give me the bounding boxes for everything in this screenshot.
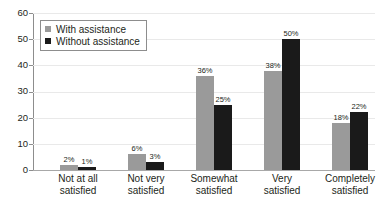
legend-item-with-assistance[interactable]: With assistance [45, 23, 140, 35]
bar-value-with-assistance-not-very-satisfied: 6% [122, 145, 152, 153]
y-tick-label-50: 50 [2, 34, 28, 44]
x-category-line1-completely: Completely [325, 173, 375, 184]
bar-chart-figure: 60 50 40 30 20 10 0 2% 1% 6% [0, 0, 380, 212]
legend-swatch-icon-with-assistance [45, 26, 51, 32]
bar-without-assistance-not-at-all-satisfied[interactable] [78, 167, 96, 170]
y-tick-label-30: 30 [2, 86, 28, 96]
bar-group-completely-satisfied: 18% 22% [332, 13, 368, 170]
y-tick-label-10: 10 [2, 139, 28, 149]
x-category-line1-not-at-all: Not at all [58, 173, 97, 184]
y-tick-label-40: 40 [2, 60, 28, 70]
x-category-line1-not-very: Not very [127, 173, 164, 184]
gridline-baseline-0 [33, 170, 375, 171]
bar-without-assistance-somewhat-satisfied[interactable] [214, 105, 232, 170]
chart-legend: With assistance Without assistance [40, 20, 147, 51]
x-category-line1-very: Very [272, 173, 292, 184]
y-tick-label-60: 60 [2, 8, 28, 18]
x-axis-labels: Not at all satisfied Not very satisfied … [33, 173, 375, 203]
x-category-line2-satisfied: satisfied [307, 185, 380, 197]
y-tick-label-20: 20 [2, 113, 28, 123]
legend-swatch-icon-without-assistance [45, 38, 51, 44]
bar-without-assistance-completely-satisfied[interactable] [350, 112, 368, 170]
legend-label-without-assistance: Without assistance [56, 36, 140, 47]
cut-off-caption-row [0, 204, 380, 212]
y-tick-label-0: 0 [2, 165, 28, 175]
x-category-label-completely-satisfied: Completely satisfied [307, 173, 380, 196]
bar-value-without-assistance-very-satisfied: 50% [276, 30, 306, 38]
x-category-line1-somewhat: Somewhat [190, 173, 237, 184]
bar-with-assistance-somewhat-satisfied[interactable] [196, 76, 214, 170]
bar-without-assistance-very-satisfied[interactable] [282, 39, 300, 170]
bar-with-assistance-very-satisfied[interactable] [264, 71, 282, 170]
bar-value-with-assistance-somewhat-satisfied: 36% [190, 67, 220, 75]
bar-value-without-assistance-somewhat-satisfied: 25% [208, 96, 238, 104]
bar-value-without-assistance-completely-satisfied: 22% [344, 103, 374, 111]
bar-group-very-satisfied: 38% 50% [264, 13, 300, 170]
legend-item-without-assistance[interactable]: Without assistance [45, 35, 140, 47]
bar-value-without-assistance-not-very-satisfied: 3% [140, 153, 170, 161]
bar-with-assistance-completely-satisfied[interactable] [332, 123, 350, 170]
bar-value-without-assistance-not-at-all-satisfied: 1% [72, 158, 102, 166]
legend-label-with-assistance: With assistance [56, 24, 126, 35]
y-axis-labels: 60 50 40 30 20 10 0 [0, 0, 28, 212]
bar-without-assistance-not-very-satisfied[interactable] [146, 162, 164, 170]
bar-group-somewhat-satisfied: 36% 25% [196, 13, 232, 170]
